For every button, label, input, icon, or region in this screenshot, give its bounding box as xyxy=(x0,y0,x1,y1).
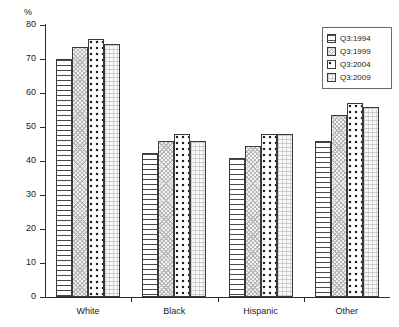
bar xyxy=(261,134,277,297)
category-label: White xyxy=(45,306,131,316)
bar xyxy=(315,141,331,297)
category-label: Black xyxy=(131,306,217,316)
y-axis-unit-label: % xyxy=(24,8,32,17)
bar xyxy=(277,134,293,297)
legend-item[interactable]: Q3:1994 xyxy=(327,32,387,45)
y-tick-label: 10 xyxy=(12,258,36,267)
bar xyxy=(158,141,174,297)
y-axis-line xyxy=(45,24,46,298)
legend-swatch-icon xyxy=(327,47,336,56)
bar xyxy=(72,47,88,297)
bar xyxy=(347,103,363,297)
legend-label: Q3:1994 xyxy=(340,34,371,43)
bar xyxy=(245,146,261,297)
legend-swatch-icon xyxy=(327,60,336,69)
bar xyxy=(104,44,120,297)
chart-legend: Q3:1994Q3:1999Q3:2004Q3:2009 xyxy=(322,27,392,89)
y-tick xyxy=(40,229,45,230)
y-tick xyxy=(40,161,45,162)
x-tick xyxy=(304,297,305,302)
bar xyxy=(190,141,206,297)
legend-swatch-icon xyxy=(327,34,336,43)
y-tick-label: 50 xyxy=(12,122,36,131)
legend-item[interactable]: Q3:1999 xyxy=(327,45,387,58)
y-tick-label: 30 xyxy=(12,190,36,199)
x-tick xyxy=(218,297,219,302)
bar xyxy=(56,59,72,297)
legend-label: Q3:2009 xyxy=(340,73,371,82)
y-tick xyxy=(40,59,45,60)
y-tick xyxy=(40,297,45,298)
bar xyxy=(363,107,379,297)
x-tick xyxy=(131,297,132,302)
bar xyxy=(331,115,347,297)
bar xyxy=(88,39,104,297)
y-tick xyxy=(40,127,45,128)
y-tick-label: 20 xyxy=(12,224,36,233)
legend-item[interactable]: Q3:2004 xyxy=(327,58,387,71)
y-tick-label: 70 xyxy=(12,54,36,63)
legend-label: Q3:2004 xyxy=(340,60,371,69)
y-tick xyxy=(40,195,45,196)
bar xyxy=(174,134,190,297)
y-tick-label: 80 xyxy=(12,20,36,29)
y-tick-label: 40 xyxy=(12,156,36,165)
legend-label: Q3:1999 xyxy=(340,47,371,56)
legend-item[interactable]: Q3:2009 xyxy=(327,71,387,84)
bar xyxy=(142,153,158,298)
legend-swatch-icon xyxy=(327,73,336,82)
y-tick xyxy=(40,25,45,26)
y-tick xyxy=(40,263,45,264)
category-label: Hispanic xyxy=(218,306,304,316)
bar xyxy=(229,158,245,297)
category-label: Other xyxy=(304,306,390,316)
y-tick xyxy=(40,93,45,94)
y-tick-label: 60 xyxy=(12,88,36,97)
y-tick-label: 0 xyxy=(12,292,36,301)
bar-chart: % 01020304050607080 WhiteBlackHispanicOt… xyxy=(0,0,399,327)
